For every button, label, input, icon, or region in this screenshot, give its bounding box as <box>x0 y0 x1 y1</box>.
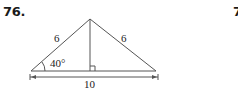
arrowhead-left-icon <box>31 75 36 79</box>
right-angle-marker <box>90 66 95 71</box>
angle-label: 40° <box>50 57 65 69</box>
angle-arc <box>42 62 45 71</box>
triangle-diagram: 6 6 40° 10 <box>0 0 238 90</box>
base-label: 10 <box>84 78 96 90</box>
arrowhead-right-icon <box>152 75 157 79</box>
left-side-label: 6 <box>54 32 60 44</box>
right-side-label: 6 <box>121 32 127 44</box>
